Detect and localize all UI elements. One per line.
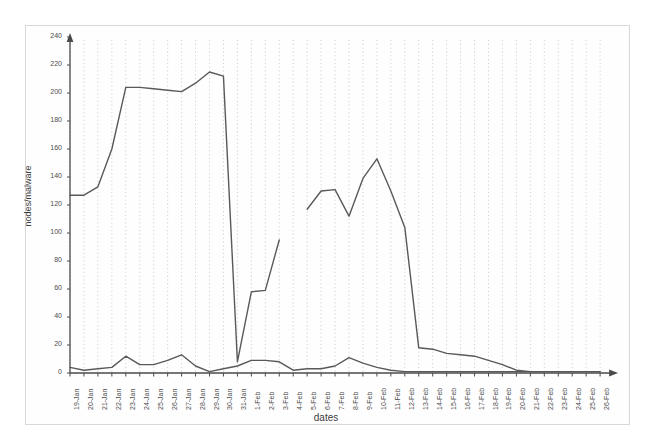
- y-tick-label: 240: [40, 32, 62, 39]
- x-tick-label: 29-Jan: [213, 389, 220, 410]
- y-tick-label: 20: [40, 340, 62, 347]
- y-tick-label: 140: [40, 172, 62, 179]
- x-tick-label: 24-Feb: [575, 388, 582, 410]
- x-tick-label: 30-Jan: [226, 389, 233, 410]
- x-tick-label: 8-Feb: [352, 392, 359, 410]
- x-tick-label: 20-Feb: [519, 388, 526, 410]
- y-tick-label: 200: [40, 88, 62, 95]
- x-tick-label: 11-Feb: [394, 388, 401, 410]
- x-tick-label: 22-Feb: [547, 388, 554, 410]
- x-tick-label: 15-Feb: [450, 388, 457, 410]
- y-tick-label: 0: [40, 368, 62, 375]
- series-line-nodes: [307, 159, 600, 372]
- chart-container: nodes/malware dates 02040608010012014016…: [0, 0, 652, 442]
- x-tick-label: 14-Feb: [436, 388, 443, 410]
- x-tick-label: 4-Feb: [296, 392, 303, 410]
- x-tick-label: 22-Jan: [115, 389, 122, 410]
- x-tick-label: 23-Feb: [561, 388, 568, 410]
- x-tick-label: 31-Jan: [240, 389, 247, 410]
- x-tick-label: 2-Feb: [268, 392, 275, 410]
- x-tick-label: 7-Feb: [338, 392, 345, 410]
- y-axis-label: nodes/malware: [23, 165, 33, 226]
- x-tick-label: 25-Jan: [157, 389, 164, 410]
- x-tick-label: 9-Feb: [366, 392, 373, 410]
- y-tick-label: 180: [40, 116, 62, 123]
- x-tick-label: 28-Jan: [199, 389, 206, 410]
- x-tick-label: 21-Feb: [533, 388, 540, 410]
- y-tick-label: 100: [40, 228, 62, 235]
- x-tick-label: 26-Feb: [603, 388, 610, 410]
- x-axis-label: dates: [314, 412, 338, 423]
- x-tick-label: 3-Feb: [282, 392, 289, 410]
- x-tick-label: 19-Feb: [505, 388, 512, 410]
- y-tick-label: 120: [40, 200, 62, 207]
- x-tick-label: 21-Jan: [101, 389, 108, 410]
- x-tick-label: 12-Feb: [408, 388, 415, 410]
- x-tick-label: 19-Jan: [73, 389, 80, 410]
- gridlines: [70, 40, 600, 373]
- x-tick-label: 25-Feb: [589, 388, 596, 410]
- y-tick-label: 60: [40, 284, 62, 291]
- x-tick-label: 20-Jan: [87, 389, 94, 410]
- x-tick-label: 24-Jan: [143, 389, 150, 410]
- x-tick-label: 26-Jan: [171, 389, 178, 410]
- x-tick-label: 17-Feb: [478, 388, 485, 410]
- x-tick-label: 16-Feb: [464, 388, 471, 410]
- x-tick-label: 13-Feb: [422, 388, 429, 410]
- x-tick-label: 23-Jan: [129, 389, 136, 410]
- y-tick-label: 160: [40, 144, 62, 151]
- chart-plot-area: [0, 0, 652, 442]
- x-tick-label: 1-Feb: [254, 392, 261, 410]
- x-tick-label: 18-Feb: [492, 388, 499, 410]
- x-tick-label: 10-Feb: [380, 388, 387, 410]
- x-tick-label: 27-Jan: [185, 389, 192, 410]
- y-tick-label: 80: [40, 256, 62, 263]
- y-tick-label: 220: [40, 60, 62, 67]
- series-line-nodes: [70, 72, 279, 362]
- x-tick-label: 5-Feb: [310, 392, 317, 410]
- x-tick-label: 6-Feb: [324, 392, 331, 410]
- y-tick-label: 40: [40, 312, 62, 319]
